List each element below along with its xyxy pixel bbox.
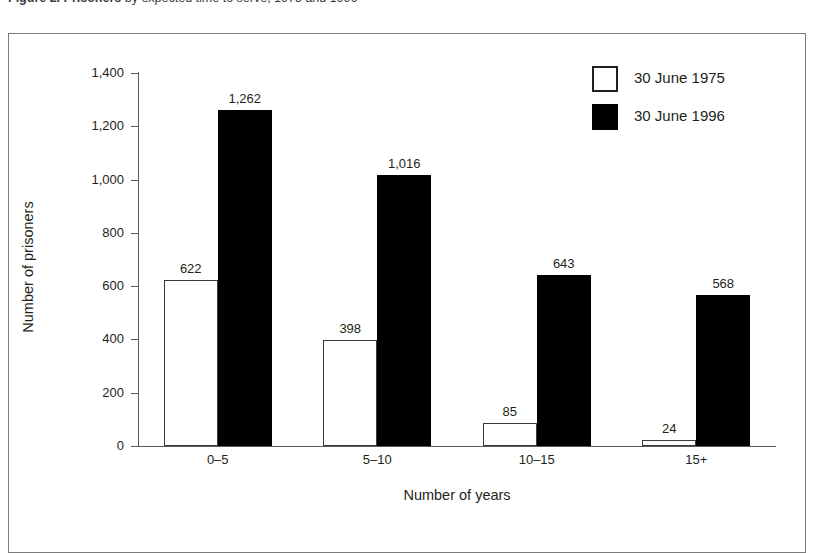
y-axis-tick-label: 1,000 [38, 173, 124, 186]
bar-10-15-series-0 [483, 423, 537, 446]
y-axis-tick [131, 339, 138, 340]
x-axis-category-label: 15+ [636, 452, 756, 467]
y-axis-tick [131, 393, 138, 394]
legend-hollow-square-icon [592, 66, 618, 92]
y-axis-tick-label: 600 [38, 279, 124, 292]
bar-value-label: 1,016 [359, 156, 449, 171]
x-axis-line [138, 446, 776, 447]
y-axis-tick-label: 1,400 [38, 66, 124, 79]
bar-value-label: 1,262 [200, 91, 290, 106]
y-axis-tick [131, 233, 138, 234]
bar-value-label: 568 [678, 276, 768, 291]
y-axis-tick [131, 73, 138, 74]
bar-0-5-series-1 [218, 110, 272, 446]
y-axis-title: Number of prisoners [20, 157, 36, 377]
y-axis-tick-label: 0 [38, 439, 124, 452]
bar-0-5-series-0 [164, 280, 218, 446]
y-axis-line [138, 72, 139, 447]
bar-10-15-series-1 [537, 275, 591, 446]
y-axis-tick [131, 446, 138, 447]
x-axis-title: Number of years [138, 487, 776, 503]
bar-5-10-series-1 [377, 175, 431, 446]
y-axis-tick [131, 126, 138, 127]
bar-15plus-series-0 [642, 440, 696, 446]
y-axis-tick-label: 400 [38, 332, 124, 345]
legend-item-label: 30 June 1975 [634, 69, 725, 86]
y-axis-tick [131, 286, 138, 287]
y-axis-tick [131, 180, 138, 181]
y-axis-tick-label: 200 [38, 386, 124, 399]
bar-value-label: 643 [519, 256, 609, 271]
x-axis-category-label: 5–10 [317, 452, 437, 467]
y-axis-tick-label: 800 [38, 226, 124, 239]
y-axis-tick-label: 1,200 [38, 119, 124, 132]
bar-15plus-series-1 [696, 295, 750, 446]
legend-filled-square-icon [592, 104, 618, 130]
x-axis-category-label: 10–15 [477, 452, 597, 467]
legend-item-label: 30 June 1996 [634, 107, 725, 124]
bar-5-10-series-0 [323, 340, 377, 446]
x-axis-category-label: 0–5 [158, 452, 278, 467]
